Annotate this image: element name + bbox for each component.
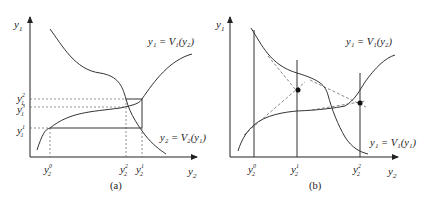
vertical-guides <box>254 30 360 157</box>
point-2 <box>358 101 363 106</box>
caption-a: (a) <box>110 180 122 192</box>
point-1 <box>296 88 301 93</box>
x-axis-label: y2 <box>187 165 197 180</box>
curve-bottom-label: y₁ = V₁(y₁) <box>369 137 417 149</box>
y-axis-label: y1 <box>215 18 224 33</box>
curve-v2 <box>50 29 166 154</box>
x-tick-y2-0: y02 <box>247 163 256 177</box>
x-tick-y2-2: y22 <box>119 163 128 177</box>
y-tick-y1-3: y31 <box>16 103 25 117</box>
curve-top-label: y₁ = V₁(y₂) <box>345 36 393 48</box>
panel-a: y1 y2 y21 y31 y11 y02 y22 y12 y₁ = V₁(y₂… <box>13 17 207 192</box>
x-axis-label: y2 <box>387 165 397 180</box>
x-tick-y2-1: y12 <box>290 163 299 177</box>
y-axis-label: y1 <box>13 18 22 33</box>
curve-v2-label: y₂ = V₂(y₁) <box>159 132 207 144</box>
curve-v1-label: y₁ = V₁(y₂) <box>147 36 195 48</box>
dashed-tangents <box>244 56 366 135</box>
x-tick-y2-2: y22 <box>352 163 361 177</box>
caption-b: (b) <box>309 180 322 192</box>
x-tick-y2-1: y12 <box>135 163 144 177</box>
x-tick-y2-0: y02 <box>43 163 52 177</box>
y-tick-y1-1: y11 <box>16 124 25 138</box>
panel-b: y1 y2 y02 y12 y22 y₁ = V₁(y₂) y₁ = V₁(y₁… <box>215 17 417 192</box>
cobweb-path <box>50 99 142 128</box>
diagram-canvas: y1 y2 y21 y31 y11 y02 y22 y12 y₁ = V₁(y₂… <box>0 0 430 201</box>
